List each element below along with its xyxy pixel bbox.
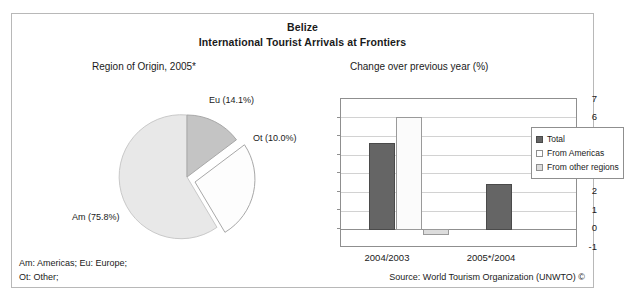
bar-chart-title: Change over previous year (%): [350, 61, 488, 72]
gridline-6: [341, 117, 576, 118]
source-note: Source: World Tourism Organization (UNWT…: [389, 272, 585, 282]
footnote-abbreviations-line-1: Am: Americas; Eu: Europe;: [19, 258, 127, 268]
x-tick-2005-2004: 2005*/2004: [452, 252, 530, 263]
bar-2005-2004-total: [486, 184, 512, 230]
pie-chart-title: Region of Origin, 2005*: [92, 61, 196, 72]
x-tick-2004-2003: 2004/2003: [352, 252, 422, 263]
bar-chart-legend: Total From Americas From other regions: [531, 127, 624, 179]
figure-subtitle: International Tourist Arrivals at Fronti…: [12, 36, 593, 48]
pie-label-am: Am (75.8%): [72, 212, 120, 222]
plot-area: Total From Americas From other regions: [340, 98, 577, 247]
pie-chart-svg: [12, 74, 302, 254]
bar-2004-2003-from-americas: [396, 117, 422, 230]
figure-title: Belize: [12, 21, 593, 33]
figure-container: Belize International Tourist Arrivals at…: [11, 13, 594, 288]
legend-label-from-americas: From Americas: [547, 148, 604, 158]
legend-swatch-from-other-regions-icon: [536, 164, 543, 171]
pie-label-ot: Ot (10.0%): [253, 133, 297, 143]
legend-swatch-from-americas-icon: [536, 150, 543, 157]
legend-label-total: Total: [547, 134, 565, 144]
legend-item-from-other-regions: From other regions: [536, 161, 619, 173]
footnote-abbreviations-line-2: Ot: Other;: [19, 272, 59, 282]
legend-label-from-other-regions: From other regions: [547, 162, 619, 172]
pie-chart: Eu (14.1%) Ot (10.0%) Am (75.8%): [12, 74, 302, 254]
legend-item-from-americas: From Americas: [536, 147, 619, 159]
pie-label-eu: Eu (14.1%): [209, 95, 254, 105]
bar-chart: 7 6 5 4 3 2 1 0 -1: [312, 74, 597, 269]
bar-2004-2003-from-other-regions: [423, 229, 449, 235]
legend-swatch-total-icon: [536, 136, 543, 143]
bar-2004-2003-total: [369, 143, 395, 230]
legend-item-total: Total: [536, 133, 619, 145]
